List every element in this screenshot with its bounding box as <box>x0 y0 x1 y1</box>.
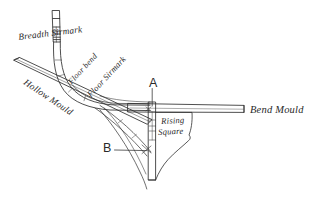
center-post <box>149 102 156 180</box>
curved-ribband-outer <box>54 42 150 111</box>
hollow-mould-bar <box>14 58 152 125</box>
pointer-line-b <box>115 145 152 154</box>
vertical-batten-top <box>53 11 61 43</box>
engraving-svg <box>0 0 323 197</box>
figure-canvas: Breadth Sirmark Floor bend Floor Sirmark… <box>0 0 323 197</box>
lower-curve-brace <box>100 108 147 189</box>
rising-square-profile <box>156 112 193 180</box>
